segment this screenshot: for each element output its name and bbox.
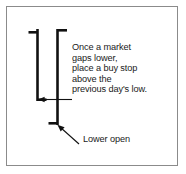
buy-stop-annotation-text: Once a market gaps lower, place a buy st…: [72, 42, 147, 95]
lower-open-arrow-shaft: [61, 128, 80, 145]
buy-stop-arrow-head: [38, 97, 44, 102]
lower-open-label: Lower open: [83, 134, 130, 145]
figure-container: Once a market gaps lower, place a buy st…: [0, 0, 186, 174]
